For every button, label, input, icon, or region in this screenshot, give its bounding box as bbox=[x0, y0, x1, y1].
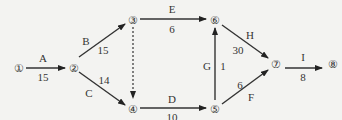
edge-6-7 bbox=[222, 25, 268, 58]
edge-5-7 bbox=[222, 70, 268, 104]
duration-b: 15 bbox=[98, 44, 110, 56]
duration-f: 6 bbox=[237, 79, 243, 91]
activity-i: I bbox=[301, 51, 305, 63]
node-7: ⑦ bbox=[271, 58, 281, 71]
node-4: ④ bbox=[128, 103, 138, 116]
activity-b: B bbox=[82, 35, 89, 47]
activity-c: C bbox=[85, 87, 92, 99]
node-6: ⑥ bbox=[210, 14, 220, 27]
node-2: ② bbox=[69, 62, 79, 75]
duration-d: 10 bbox=[167, 111, 179, 120]
activity-e: E bbox=[169, 3, 176, 15]
activity-a: A bbox=[39, 52, 47, 64]
node-1: ① bbox=[14, 62, 24, 75]
network-diagram: ① ② ③ ④ ⑤ ⑥ ⑦ ⑧ A 15 B 15 14 C E 6 D 10 … bbox=[0, 0, 342, 120]
duration-e: 6 bbox=[169, 23, 175, 35]
duration-i: 8 bbox=[300, 71, 306, 83]
node-3: ③ bbox=[128, 14, 138, 27]
duration-h: 30 bbox=[233, 44, 245, 56]
node-5: ⑤ bbox=[210, 103, 220, 116]
duration-a: 15 bbox=[38, 71, 50, 83]
activity-h: H bbox=[246, 29, 254, 41]
duration-c: 14 bbox=[99, 74, 111, 86]
duration-g: 1 bbox=[220, 60, 226, 72]
node-8: ⑧ bbox=[328, 58, 338, 71]
activity-g: G bbox=[203, 60, 211, 72]
activity-f: F bbox=[248, 91, 254, 103]
activity-d: D bbox=[168, 93, 176, 105]
